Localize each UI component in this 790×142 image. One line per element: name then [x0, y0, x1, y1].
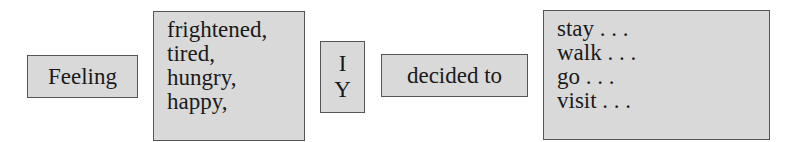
feeling-label: Feeling [48, 65, 117, 89]
actions-list-box: stay . . . walk . . . go . . . visit . .… [543, 10, 770, 140]
verb-label: decided to [407, 64, 502, 88]
action-item: stay . . . [557, 17, 769, 41]
action-item: walk . . . [557, 41, 769, 65]
subject-item: I [321, 52, 364, 78]
feeling-item: frightened, [167, 18, 304, 42]
action-item: go . . . [557, 65, 769, 89]
feeling-box: Feeling [27, 55, 138, 98]
feelings-list-box: frightened, tired, hungry, happy, [153, 11, 305, 141]
subject-box: I Y [320, 41, 365, 113]
verb-box: decided to [381, 54, 528, 97]
feeling-item: happy, [167, 90, 304, 114]
action-item: visit . . . [557, 89, 769, 113]
feeling-item: tired, [167, 42, 304, 66]
feeling-item: hungry, [167, 66, 304, 90]
subject-item: Y [321, 78, 364, 104]
